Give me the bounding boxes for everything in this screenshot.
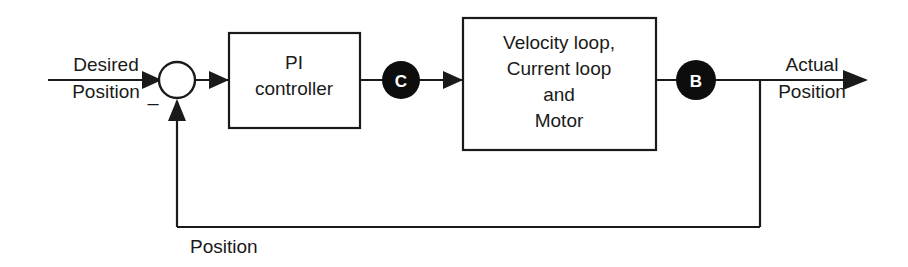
block-plant-line-2: Current loop [507, 58, 612, 79]
block-pi-controller-line-1: PI [285, 52, 303, 73]
summing-junction [159, 62, 195, 98]
block-diagram-figure: – PI controller C Velocity loop, Current… [0, 0, 908, 267]
output-label-line-1: Actual [786, 54, 839, 75]
node-c-label: C [395, 72, 407, 91]
block-pi-controller-line-2: controller [255, 78, 334, 99]
diagram-canvas: – PI controller C Velocity loop, Current… [0, 0, 908, 267]
summing-junction-minus-sign: – [147, 92, 159, 114]
block-plant-line-1: Velocity loop, [503, 32, 615, 53]
output-label-line-2: Position [778, 81, 846, 102]
feedback-label: Position [190, 236, 258, 257]
block-plant-line-3: and [543, 84, 575, 105]
arrowhead-node-c-to-plant [443, 71, 463, 89]
node-b-label: B [690, 72, 702, 91]
arrowhead-feedback-to-sum [168, 99, 186, 121]
arrowhead-sum-to-pi [209, 71, 229, 89]
block-plant-line-4: Motor [535, 110, 584, 131]
input-label-line-2: Position [72, 81, 140, 102]
input-label-line-1: Desired [73, 54, 138, 75]
arrowhead-output [843, 70, 868, 90]
